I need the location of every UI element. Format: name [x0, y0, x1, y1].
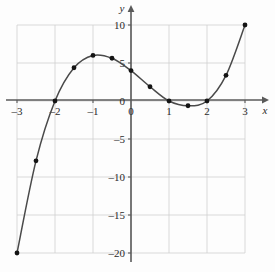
data-point-marker	[72, 65, 77, 70]
data-point-marker	[224, 73, 229, 78]
data-point-marker	[91, 53, 96, 58]
y-tick-label: 0	[120, 95, 126, 107]
x-tick-label: 1	[166, 105, 172, 117]
data-point-marker	[34, 158, 39, 163]
data-point-marker	[243, 23, 248, 28]
cubic-function-graph: –3–2–101231050–5–10–15–20 xy	[0, 0, 275, 272]
y-tick-label: –5	[113, 133, 126, 145]
y-tick-label: 10	[114, 19, 126, 31]
y-axis-label: y	[119, 2, 125, 14]
x-tick-label: 0	[128, 105, 134, 117]
x-tick-label: –3	[11, 105, 24, 117]
data-point-marker	[186, 103, 191, 108]
y-tick-label: –10	[108, 171, 126, 183]
x-tick-label: 3	[242, 105, 248, 117]
data-point-marker	[129, 68, 134, 73]
x-axis-label: x	[262, 104, 268, 116]
chart-canvas: –3–2–101231050–5–10–15–20 xy	[0, 0, 275, 272]
data-point-marker	[15, 251, 20, 256]
data-point-marker	[110, 56, 115, 61]
y-tick-label: –15	[108, 209, 126, 221]
x-tick-label: –1	[87, 105, 99, 117]
data-point-marker	[148, 84, 153, 89]
y-tick-label: –20	[108, 247, 126, 259]
data-point-marker	[205, 99, 210, 104]
plot-background	[0, 0, 275, 272]
data-point-marker	[53, 99, 58, 104]
data-point-marker	[167, 99, 172, 104]
x-tick-label: 2	[204, 105, 210, 117]
